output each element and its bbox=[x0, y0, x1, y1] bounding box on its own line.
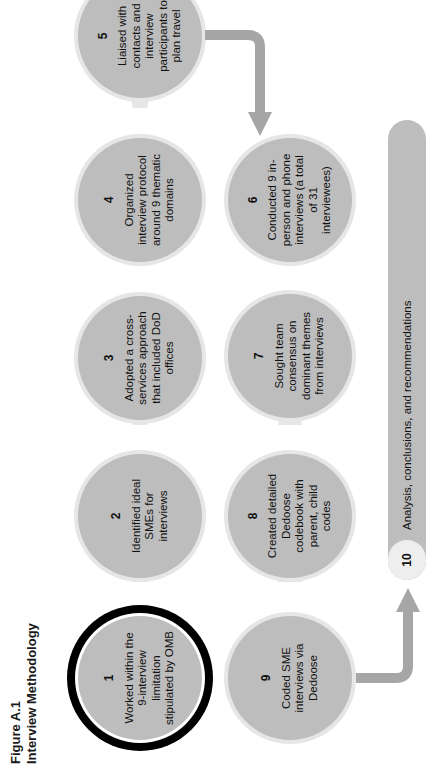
step-10-text: Analysis, conclusions, and recommendatio… bbox=[401, 301, 413, 540]
arrow-9-to-10-icon bbox=[356, 608, 408, 678]
step-10-number: 10 bbox=[388, 540, 426, 580]
flow-arrows bbox=[0, 0, 433, 780]
arrow-5-to-6-icon bbox=[205, 35, 260, 118]
step-10-bar: 10 Analysis, conclusions, and recommenda… bbox=[388, 120, 426, 580]
arrow-9-to-10-head-icon bbox=[396, 588, 420, 612]
arrow-5-to-6-head-icon bbox=[248, 112, 272, 136]
figure-stage: Figure A.1 Interview Methodology 1 Worke… bbox=[0, 0, 433, 780]
